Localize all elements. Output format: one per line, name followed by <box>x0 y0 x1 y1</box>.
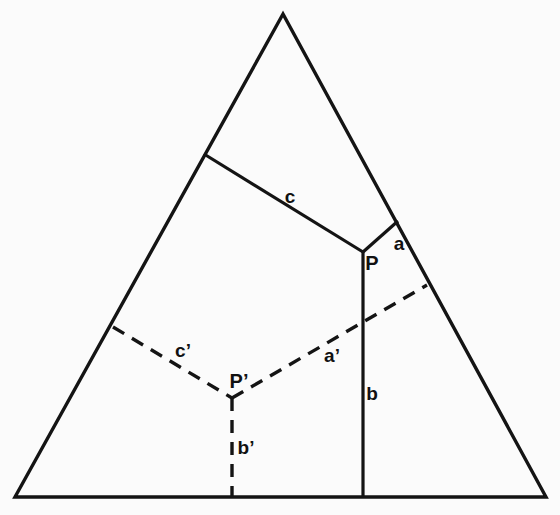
label-c: c <box>285 187 296 206</box>
label-b: b <box>366 384 378 403</box>
diagram-canvas <box>0 0 560 515</box>
segment-a-prime <box>232 285 427 398</box>
outer-triangle <box>15 14 546 497</box>
label-a: a <box>394 234 405 253</box>
segment-c <box>204 154 363 252</box>
label-point-p-prime: P’ <box>230 371 249 391</box>
label-b-prime: b’ <box>238 438 255 457</box>
segment-c-prime <box>113 327 232 398</box>
geometry-diagram: c a b c’ a’ b’ P P’ <box>0 0 560 515</box>
label-point-p: P <box>365 253 378 273</box>
label-a-prime: a’ <box>324 346 340 365</box>
label-c-prime: c’ <box>175 341 191 360</box>
